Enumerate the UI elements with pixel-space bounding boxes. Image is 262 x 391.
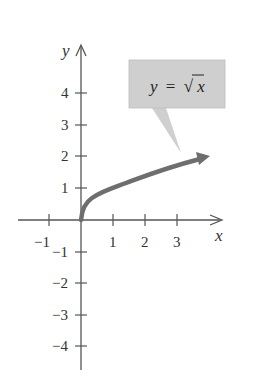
callout-x: x <box>196 77 205 96</box>
x-tick-label: 1 <box>109 234 117 250</box>
callout-y: y <box>148 77 158 96</box>
y-axis-label: y <box>60 41 70 60</box>
sqrt-graph: −1 1 2 3 4 3 2 1 −1 −2 −3 −4 x y y = √ x <box>0 0 262 391</box>
y-tick-label: 2 <box>61 148 69 164</box>
y-tick-label: 4 <box>61 85 69 101</box>
sqrt-curve <box>81 159 200 220</box>
y-tick-label: −1 <box>52 244 68 260</box>
sqrt-icon: √ <box>184 77 194 96</box>
y-tick-label: −4 <box>52 338 68 354</box>
curve-arrow-icon <box>196 152 210 165</box>
callout-equals: = <box>166 77 176 96</box>
x-tick-label: −1 <box>34 234 50 250</box>
y-tick-label: 3 <box>61 117 69 133</box>
y-tick-label: −2 <box>52 275 68 291</box>
y-tick-label: 1 <box>61 180 69 196</box>
equation-callout: y = √ x <box>129 60 225 153</box>
x-tick-label: 2 <box>141 234 149 250</box>
svg-text:y = √ x: y = √ x <box>148 77 205 96</box>
x-axis-label: x <box>214 226 223 245</box>
y-tick-label: −3 <box>52 307 68 323</box>
x-tick-label: 3 <box>173 234 181 250</box>
